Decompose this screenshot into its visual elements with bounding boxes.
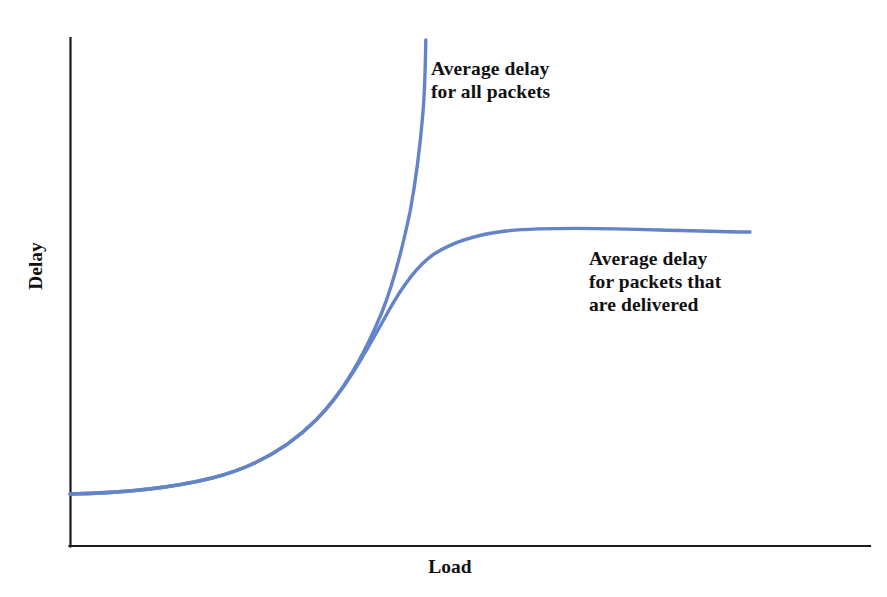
annotation-all-packets: Average delay for all packets	[431, 57, 550, 103]
delay-vs-load-figure: Average delay for all packets Average de…	[0, 0, 887, 597]
x-axis-label: Load	[390, 556, 510, 578]
annotation-delivered-packets: Average delay for packets that are deliv…	[589, 247, 721, 316]
y-axis-label: Delay	[25, 226, 47, 306]
curve-all-packets	[70, 40, 426, 494]
